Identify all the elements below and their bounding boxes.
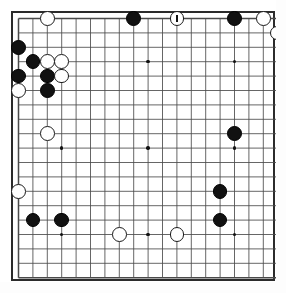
stone-white[interactable] [40, 126, 55, 141]
hoshi-point [146, 60, 149, 63]
stone-white[interactable] [40, 54, 55, 69]
hoshi-point [146, 233, 149, 236]
stone-white[interactable] [54, 69, 69, 84]
go-board-diagram [0, 0, 286, 293]
hoshi-point [60, 146, 63, 149]
stone-white-marked[interactable] [170, 11, 185, 26]
hoshi-point [233, 146, 236, 149]
stone-black[interactable] [26, 213, 41, 228]
stone-white[interactable] [11, 83, 26, 98]
last-move-marker-icon [176, 15, 178, 22]
hoshi-point [60, 233, 63, 236]
stone-black[interactable] [26, 54, 41, 69]
stone-black[interactable] [54, 213, 69, 228]
stone-layer[interactable] [0, 0, 286, 293]
hoshi-point [233, 233, 236, 236]
stone-black[interactable] [213, 213, 228, 228]
stone-white[interactable] [11, 184, 26, 199]
stone-black[interactable] [11, 69, 26, 84]
stone-black[interactable] [40, 69, 55, 84]
stone-white[interactable] [40, 11, 55, 26]
stone-black[interactable] [11, 40, 26, 55]
scan-margin-right [276, 0, 286, 293]
scan-margin-bottom [0, 282, 286, 293]
stone-black[interactable] [213, 184, 228, 199]
stone-white[interactable] [54, 54, 69, 69]
stone-black[interactable] [126, 11, 141, 26]
stone-black[interactable] [40, 83, 55, 98]
hoshi-point [233, 60, 236, 63]
stone-white[interactable] [112, 227, 127, 242]
stone-white[interactable] [170, 227, 185, 242]
stone-white[interactable] [256, 11, 271, 26]
hoshi-point [146, 146, 149, 149]
stone-black[interactable] [227, 11, 242, 26]
stone-black[interactable] [227, 126, 242, 141]
